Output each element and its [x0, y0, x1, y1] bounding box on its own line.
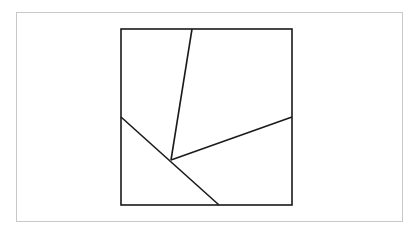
segment-right-to-center	[171, 117, 292, 160]
outer-square	[121, 29, 292, 205]
segment-left-to-bottom	[121, 117, 219, 205]
segment-top-to-center	[171, 29, 192, 160]
dissected-square-diagram	[0, 0, 417, 235]
